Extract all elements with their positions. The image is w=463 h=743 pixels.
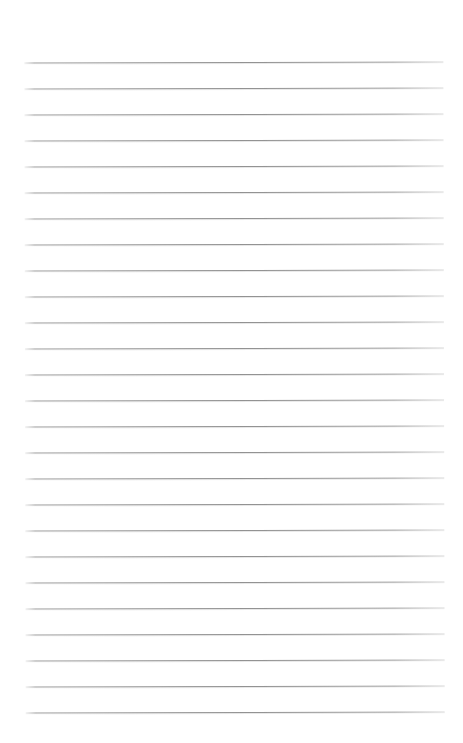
- lined-paper-page: [0, 0, 463, 743]
- writing-area[interactable]: [25, 40, 444, 730]
- paper-sheet: [0, 0, 463, 743]
